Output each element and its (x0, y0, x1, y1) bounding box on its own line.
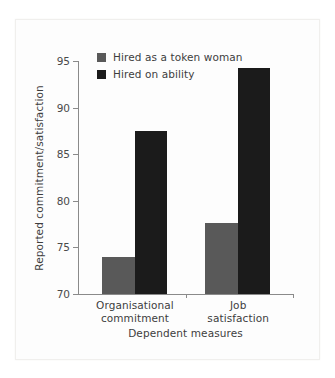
chart-plot-area: 707580859095 Organisational commitment J… (0, 0, 335, 378)
category-label-line-2: satisfaction (183, 312, 293, 325)
bar-1-1 (238, 68, 270, 294)
bar-0-1 (135, 131, 167, 294)
x-axis-category-label-0: Organisational commitment (80, 299, 190, 324)
bar-1-0 (205, 223, 238, 294)
y-tick-label: 90 (44, 103, 70, 113)
x-tick-mark (293, 294, 294, 298)
legend-item-1: Hired on ability (97, 67, 243, 82)
category-label-line-2: commitment (80, 312, 190, 325)
bar-0-0 (102, 257, 135, 294)
y-axis-title: Reported commitment/satisfaction (33, 73, 45, 283)
x-axis-category-label-1: Job satisfaction (183, 299, 293, 324)
category-label-line-1: Job (183, 299, 293, 312)
legend-item-0: Hired as a token woman (97, 50, 243, 65)
figure: 707580859095 Organisational commitment J… (0, 0, 335, 378)
y-tick-label: 70 (44, 289, 70, 299)
chart-legend: Hired as a token woman Hired on ability (97, 50, 243, 84)
category-label-line-1: Organisational (80, 299, 190, 312)
bar-group-container (78, 61, 293, 294)
y-tick-mark (73, 294, 78, 295)
legend-swatch-on-ability (97, 70, 106, 79)
y-tick-label: 95 (44, 56, 70, 66)
y-tick-label: 75 (44, 242, 70, 252)
legend-label-on-ability: Hired on ability (113, 69, 195, 80)
x-axis-title: Dependent measures (78, 327, 293, 339)
x-tick-mark (186, 294, 187, 298)
y-tick-label: 85 (44, 149, 70, 159)
legend-label-token-woman: Hired as a token woman (113, 52, 243, 63)
legend-swatch-token-woman (97, 53, 106, 62)
y-tick-label: 80 (44, 196, 70, 206)
